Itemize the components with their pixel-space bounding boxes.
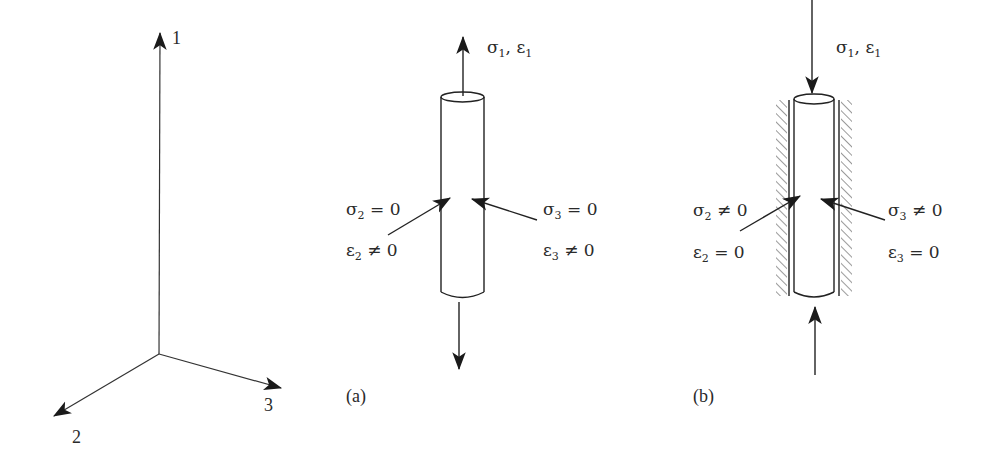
stress-strain-diagram: 1 2 3 σ1, ε1 σ2 = 0 ε2 ≠ 0 σ3 = 0 ε3 ≠ 0 xyxy=(0,0,982,458)
sigma2-label-b: σ2 ≠ 0 xyxy=(693,200,747,223)
sigma3-label-b: σ3 ≠ 0 xyxy=(888,200,942,223)
panel-b: σ1, ε1 σ2 ≠ 0 ε2 = 0 σ3 ≠ 0 ε3 = 0 (b) xyxy=(693,0,942,407)
axis-1-arrow xyxy=(159,33,160,354)
panel-a: σ1, ε1 σ2 = 0 ε2 ≠ 0 σ3 = 0 ε3 ≠ 0 (a) xyxy=(346,37,597,407)
epsilon3-label-a: ε3 ≠ 0 xyxy=(543,240,595,263)
lateral-arrow-right-a xyxy=(472,199,537,220)
axis-3-arrow xyxy=(159,354,281,388)
panel-b-caption: (b) xyxy=(693,386,714,407)
epsilon2-label-a: ε2 ≠ 0 xyxy=(346,240,398,263)
axis-1-label: 1 xyxy=(172,28,181,48)
axis-2-arrow xyxy=(54,354,159,416)
cylinder-specimen-a xyxy=(441,92,484,298)
coordinate-axes: 1 2 3 xyxy=(54,28,281,447)
confining-wall-right xyxy=(841,100,852,296)
lateral-arrow-right-b xyxy=(821,199,885,220)
epsilon3-label-b: ε3 = 0 xyxy=(888,242,940,265)
axis-3-label: 3 xyxy=(264,395,273,415)
sigma3-label-a: σ3 = 0 xyxy=(543,199,597,222)
sigma2-label-a: σ2 = 0 xyxy=(346,199,400,222)
confining-wall-left xyxy=(776,100,787,296)
axial-label-b: σ1, ε1 xyxy=(836,37,881,60)
panel-a-caption: (a) xyxy=(346,386,366,407)
axial-label-a: σ1, ε1 xyxy=(487,37,532,60)
axis-2-label: 2 xyxy=(72,427,81,447)
cylinder-specimen-b xyxy=(794,94,834,297)
epsilon2-label-b: ε2 = 0 xyxy=(693,242,745,265)
lateral-arrow-left-b xyxy=(740,196,800,231)
